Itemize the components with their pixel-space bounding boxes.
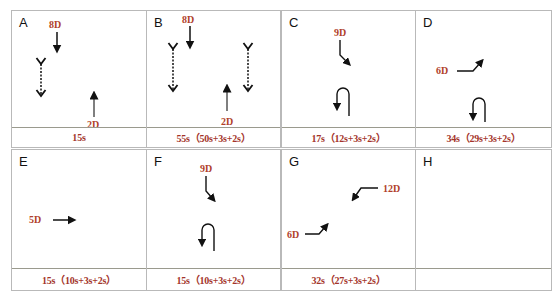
label-8d: 8D bbox=[49, 19, 61, 30]
movement-arrows: 12D 6D bbox=[282, 150, 417, 270]
arrow-westbound-left-turn-icon bbox=[354, 188, 378, 198]
movement-arrows: 9D bbox=[282, 11, 417, 129]
label-8d: 8D bbox=[182, 14, 194, 25]
phase-panel-a: A 8D 2D 15s bbox=[11, 10, 147, 148]
arrow-eastbound-left-turn-icon bbox=[305, 226, 326, 234]
movement-arrows: 9D bbox=[147, 150, 282, 270]
movement-arrows: 6D bbox=[416, 11, 553, 129]
phase-panel-b: B 8D 2D 55s（50s+3s+2s） bbox=[146, 10, 281, 148]
phase-panel-f: F 9D 15s（10s+3s+2s） bbox=[146, 149, 281, 291]
label-6d: 6D bbox=[287, 229, 299, 240]
phase-duration: 15s bbox=[72, 132, 85, 143]
phase-duration: 55s（50s+3s+2s） bbox=[176, 130, 250, 145]
phase-letter: H bbox=[423, 154, 432, 169]
label-6d: 6D bbox=[436, 65, 448, 76]
phase-panel-c: C 9D 17s（12s+3s+2s） bbox=[281, 10, 416, 148]
label-5d: 5D bbox=[29, 214, 41, 225]
label-2d: 2D bbox=[221, 116, 233, 127]
phase-duration: 15s（10s+3s+2s） bbox=[42, 272, 116, 287]
phase-duration: 17s（12s+3s+2s） bbox=[311, 130, 385, 145]
signal-phase-grid: A 8D 2D 15s B 8D bbox=[11, 10, 552, 291]
phase-panel-e: E 5D 15s（10s+3s+2s） bbox=[11, 149, 147, 291]
phase-panel-h: H bbox=[415, 149, 552, 291]
phase-duration: 15s（10s+3s+2s） bbox=[176, 272, 250, 287]
arrow-u-turn-icon bbox=[202, 224, 214, 251]
arrow-southbound-left-turn-icon bbox=[340, 40, 348, 63]
arrow-eastbound-left-turn-icon bbox=[457, 62, 481, 71]
movement-arrows: 8D 2D bbox=[147, 11, 282, 129]
label-12d: 12D bbox=[383, 183, 400, 194]
phase-duration: 34s（29s+3s+2s） bbox=[446, 130, 520, 145]
arrow-u-turn-icon bbox=[473, 98, 485, 122]
arrow-u-turn-icon bbox=[337, 88, 349, 116]
label-9d: 9D bbox=[200, 163, 212, 174]
phase-duration: 32s（27s+3s+2s） bbox=[311, 272, 385, 287]
label-9d: 9D bbox=[334, 27, 346, 38]
arrow-southbound-left-turn-icon bbox=[206, 176, 213, 199]
movement-arrows: 8D 2D bbox=[12, 11, 148, 129]
phase-panel-d: D 6D 34s（29s+3s+2s） bbox=[415, 10, 552, 148]
movement-arrows: 5D bbox=[12, 150, 148, 270]
phase-panel-g: G 12D 6D 32s（27s+3s+2s） bbox=[281, 149, 416, 291]
